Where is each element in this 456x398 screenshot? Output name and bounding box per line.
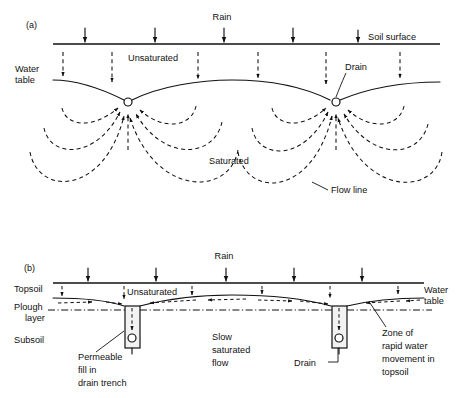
panel-b-subsoil-label: Subsoil xyxy=(14,335,44,345)
panel-b-permeable-label-line1: Permeable xyxy=(78,352,122,362)
panel-a-water-table-label-line1: Water xyxy=(15,64,39,74)
panel-a-flow-lines-right xyxy=(238,106,442,183)
figure-root: (a) Rain Soil surface xyxy=(0,0,456,398)
flow-line-leader xyxy=(312,182,328,190)
panel-b-zone-line3: movement in xyxy=(382,354,435,364)
panel-b-rain-arrows xyxy=(88,268,362,281)
drainage-diagram-svg: (a) Rain Soil surface xyxy=(0,0,456,398)
panel-a-water-table xyxy=(53,80,440,100)
panel-a-unsaturated-label: Unsaturated xyxy=(128,53,178,63)
zone-leader xyxy=(370,303,386,327)
flow-line xyxy=(136,114,222,150)
soil-surface-label: Soil surface xyxy=(368,32,416,42)
flow-line xyxy=(140,106,196,124)
panel-b-permeable-label-line2: fill in xyxy=(78,365,96,375)
drain-pipe xyxy=(335,334,343,342)
panel-a: (a) Rain Soil surface xyxy=(15,12,442,195)
panel-b-permeable-label-line3: drain trench xyxy=(78,378,127,388)
panel-b-zone-line4: topsoil xyxy=(382,367,409,377)
panel-a-rain-label: Rain xyxy=(213,12,232,22)
water-table-curve xyxy=(132,80,330,100)
panel-b-water-table xyxy=(53,295,424,306)
drain-pipe xyxy=(128,334,136,342)
panel-a-flow-lines-left xyxy=(30,106,238,182)
panel-b-plough-label-line1: Plough xyxy=(14,302,43,312)
flow-line xyxy=(44,112,120,149)
panel-b-zone-line2: rapid water xyxy=(382,341,427,351)
lateral-flow-arrow xyxy=(58,302,92,303)
panel-b-drain-label: Drain xyxy=(294,358,316,368)
drain-node xyxy=(124,98,132,106)
panel-a-saturated-label: Saturated xyxy=(209,156,249,166)
panel-b: (b) Rain Topsoil Plough layer Subsoil xyxy=(14,251,448,388)
panel-b-lateral-flow-arrows xyxy=(58,299,420,304)
flow-line xyxy=(252,112,328,151)
flow-line xyxy=(344,114,428,150)
panel-b-zone-line1: Zone of xyxy=(382,328,414,338)
water-table-curve xyxy=(340,82,440,100)
lateral-flow-arrow xyxy=(208,299,246,300)
panel-a-rain-arrows xyxy=(85,28,358,42)
drain-trench-left xyxy=(125,306,140,354)
panel-b-slow-flow-line1: Slow xyxy=(212,332,232,342)
flow-line xyxy=(272,108,326,123)
drain-leader xyxy=(336,73,346,97)
panel-b-water-table-label-line2: table xyxy=(424,296,444,306)
panel-b-slow-flow-line3: flow xyxy=(212,358,229,368)
panel-a-label: (a) xyxy=(26,20,37,30)
panel-b-topsoil-label: Topsoil xyxy=(14,284,43,294)
panel-b-rain-label: Rain xyxy=(215,251,234,261)
panel-b-infiltration-arrows xyxy=(62,286,398,299)
water-table-curve xyxy=(53,298,124,306)
flow-line xyxy=(238,116,332,183)
permeable-fill-leader xyxy=(96,331,124,352)
panel-b-label: (b) xyxy=(24,263,35,273)
drain-node xyxy=(332,98,340,106)
water-table-curve xyxy=(53,80,124,100)
lateral-flow-arrow xyxy=(258,300,292,301)
panel-b-unsaturated-label: Unsaturated xyxy=(127,287,177,297)
drain-trench-right xyxy=(332,306,347,354)
panel-b-plough-label-line2: layer xyxy=(25,313,45,323)
panel-a-water-table-label-line2: table xyxy=(15,75,35,85)
lateral-flow-arrow xyxy=(406,300,420,301)
drain-leader xyxy=(328,348,338,362)
panel-a-drain-label: Drain xyxy=(345,62,367,72)
panel-a-flow-line-label: Flow line xyxy=(331,185,367,195)
flow-line xyxy=(62,108,118,123)
flow-line xyxy=(348,106,404,124)
panel-b-slow-flow-line2: saturated xyxy=(212,345,250,355)
panel-b-water-table-label-line1: Water xyxy=(424,285,448,295)
